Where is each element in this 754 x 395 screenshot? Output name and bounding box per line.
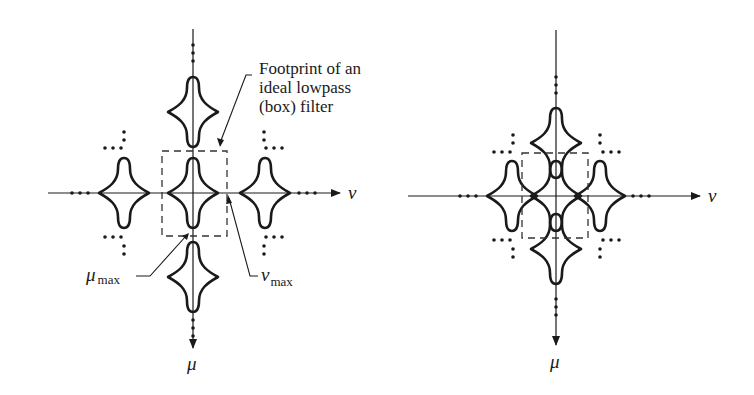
callout-line-1: Footprint of an xyxy=(259,59,361,78)
callout-arrow-icon xyxy=(217,138,224,147)
mu-max-label: μmax xyxy=(85,264,120,287)
nu-axis-label-left: ν xyxy=(348,182,357,203)
nu-max-label: νmax xyxy=(261,264,293,289)
left-panel: Footprint of an ideal lowpass (box) filt… xyxy=(48,29,361,374)
nu-max-leader xyxy=(229,198,258,276)
callout-leader xyxy=(220,75,252,143)
mu-axis-label-left: μ xyxy=(186,353,197,374)
nu-axis-label-right: ν xyxy=(708,185,717,206)
callout-line-3: (box) filter xyxy=(259,97,333,116)
mu-axis-label-right: μ xyxy=(549,351,560,372)
callout-line-2: ideal lowpass xyxy=(259,78,351,97)
right-panel: ν μ xyxy=(408,30,717,372)
sampling-spectrum-figure: Footprint of an ideal lowpass (box) filt… xyxy=(0,0,754,395)
